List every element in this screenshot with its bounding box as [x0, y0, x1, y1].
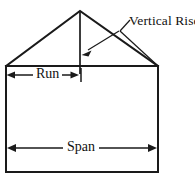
run-arrow-head-right — [71, 72, 80, 79]
vertical-rise-leader-arrow-shaft — [88, 31, 119, 50]
vertical-rise-leader-lower — [120, 31, 158, 66]
run-arrow-head-left — [7, 72, 16, 79]
vertical-rise-arrow-head — [82, 51, 92, 57]
vertical-rise-label: Vertical Rise — [129, 14, 195, 28]
building-walls-and-floor — [6, 66, 158, 172]
span-arrow-head-right — [148, 144, 157, 152]
roof-framing-diagram: Run Span Vertical Rise — [0, 0, 195, 177]
span-label: Span — [63, 140, 99, 154]
span-arrow-head-left — [7, 144, 16, 152]
run-label: Run — [33, 67, 62, 81]
